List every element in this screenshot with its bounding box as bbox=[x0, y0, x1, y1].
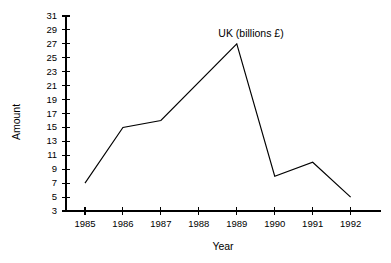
x-tick-label: 1992 bbox=[340, 218, 361, 229]
y-tick-label: 23 bbox=[46, 66, 57, 77]
x-tick-label: 1991 bbox=[302, 218, 323, 229]
y-axis: 35791113151719212325272931 bbox=[46, 10, 70, 216]
y-tick-label: 31 bbox=[46, 10, 57, 21]
y-tick-label: 3 bbox=[52, 205, 57, 216]
chart-title: UK (billions £) bbox=[218, 27, 283, 39]
data-series-line bbox=[85, 44, 351, 197]
y-tick-label: 25 bbox=[46, 52, 57, 63]
chart-canvas: 35791113151719212325272931 1985198619871… bbox=[0, 0, 391, 263]
y-tick-label: 7 bbox=[52, 177, 57, 188]
y-axis-tick-labels: 35791113151719212325272931 bbox=[46, 10, 57, 216]
x-tick-label: 1985 bbox=[74, 218, 95, 229]
y-axis-label: Amount bbox=[10, 104, 22, 140]
y-tick-label: 17 bbox=[46, 108, 57, 119]
y-tick-label: 27 bbox=[46, 38, 57, 49]
line-chart: 35791113151719212325272931 1985198619871… bbox=[0, 0, 391, 263]
y-tick-label: 11 bbox=[47, 149, 57, 160]
x-axis-label: Year bbox=[212, 240, 234, 252]
x-axis: 19851986198719881989199019911992 bbox=[66, 207, 381, 229]
x-tick-label: 1990 bbox=[264, 218, 285, 229]
y-tick-label: 13 bbox=[46, 135, 57, 146]
x-axis-tick-labels: 19851986198719881989199019911992 bbox=[74, 218, 361, 229]
x-tick-label: 1988 bbox=[188, 218, 209, 229]
x-tick-label: 1987 bbox=[150, 218, 171, 229]
x-tick-label: 1989 bbox=[226, 218, 247, 229]
y-tick-label: 9 bbox=[52, 163, 57, 174]
y-tick-label: 21 bbox=[46, 80, 57, 91]
x-tick-label: 1986 bbox=[112, 218, 133, 229]
y-tick-label: 5 bbox=[52, 191, 57, 202]
y-tick-label: 19 bbox=[46, 94, 57, 105]
y-tick-label: 15 bbox=[46, 121, 57, 132]
y-tick-label: 29 bbox=[46, 24, 57, 35]
